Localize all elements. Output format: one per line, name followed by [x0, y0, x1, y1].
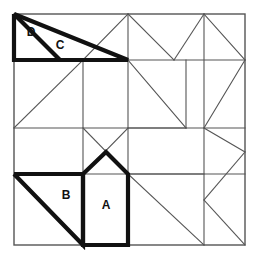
label-d: D	[27, 25, 36, 39]
figure-container: A B C D	[0, 0, 259, 257]
tangram-diagram: A B C D	[0, 0, 259, 257]
label-b: B	[62, 188, 71, 202]
label-a: A	[102, 198, 111, 212]
label-c: C	[56, 38, 65, 52]
